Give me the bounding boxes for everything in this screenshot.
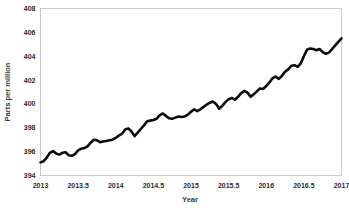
x-tick-label: 2017 xyxy=(334,182,349,189)
chart-canvas: 394396398400402404406408 20132013.520142… xyxy=(0,0,349,208)
y-tick-label: 402 xyxy=(24,77,36,84)
y-tick-label: 408 xyxy=(24,5,36,12)
x-axis-title: Year xyxy=(182,195,198,204)
x-tick-label: 2016.5 xyxy=(293,182,315,189)
x-axis-tick-labels: 20132013.520142014.520152015.520162016.5… xyxy=(33,182,349,189)
x-tick-label: 2016 xyxy=(258,182,274,189)
y-tick-label: 404 xyxy=(24,53,36,60)
x-tick-label: 2013 xyxy=(33,182,49,189)
y-tick-label: 396 xyxy=(24,148,36,155)
x-tick-label: 2015.5 xyxy=(218,182,240,189)
x-tick-label: 2014 xyxy=(108,182,124,189)
y-tick-label: 406 xyxy=(24,29,36,36)
y-tick-label: 398 xyxy=(24,124,36,131)
y-tick-label: 394 xyxy=(24,172,36,179)
co2-line-chart: 394396398400402404406408 20132013.520142… xyxy=(0,0,349,208)
y-tick-label: 400 xyxy=(24,100,36,107)
x-tick-label: 2013.5 xyxy=(67,182,89,189)
y-axis-title: Parts per million xyxy=(3,62,12,121)
x-tick-label: 2014.5 xyxy=(143,182,165,189)
x-tick-label: 2015 xyxy=(183,182,199,189)
chart-background xyxy=(0,0,349,208)
